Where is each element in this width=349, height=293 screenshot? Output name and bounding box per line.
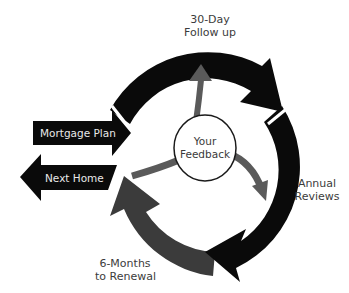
stage-label-renewal: 6-Months to Renewal bbox=[95, 257, 155, 283]
stage-label-follow-up: 30-Day Follow up bbox=[170, 13, 250, 39]
inner-arrow-left bbox=[132, 160, 179, 176]
center-label: Your Feedback bbox=[175, 135, 235, 161]
next-home-label: Next Home bbox=[45, 172, 104, 184]
mortgage-plan-label: Mortgage Plan bbox=[40, 127, 116, 139]
stage-label-annual-reviews: Annual Reviews bbox=[292, 177, 342, 203]
feedback-cycle-diagram: 30-Day Follow up Annual Reviews 6-Months… bbox=[0, 0, 349, 293]
